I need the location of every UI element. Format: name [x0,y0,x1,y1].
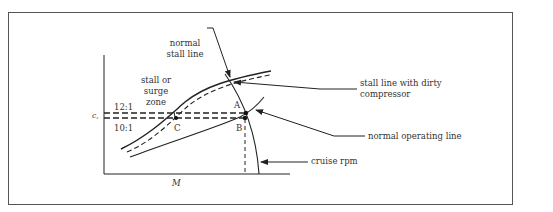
point-a-label: A [234,100,240,111]
ratio-10-label: 10:1 [114,123,133,134]
dirty-stall-line-label: stall line with dirty compressor [360,78,442,100]
label-line-1: normal [160,38,210,49]
point-c-label: C [174,123,181,134]
operating-line-label: normal operating line [368,131,462,142]
surge-zone-label: stall or surge zone [134,75,178,108]
label-line-1: stall or [134,75,178,86]
cruise-rpm-label: cruise rpm [311,156,358,167]
leader-operating-line [256,110,365,136]
label-line-2: stall line [160,49,210,60]
leader-dirty-stall [234,82,357,89]
point-a-marker [244,111,248,115]
label-line-1: stall line with dirty [360,78,442,89]
ratio-12-label: 12:1 [114,102,133,113]
x-axis-label: M [172,178,181,189]
leader-normal-stall [207,28,230,77]
label-line-3: zone [134,97,178,108]
compressor-map-diagram [0,0,553,212]
normal-stall-line-label: normal stall line [160,38,210,60]
point-b-marker [243,116,247,120]
point-b-label: B [236,123,242,134]
leader-point-c [174,112,175,117]
label-line-2: compressor [360,89,442,100]
y-axis-label: c, [92,110,99,121]
label-line-2: surge [134,86,178,97]
